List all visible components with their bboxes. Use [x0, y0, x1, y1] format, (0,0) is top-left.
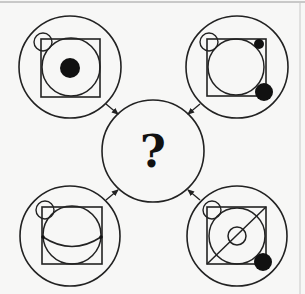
- center-question-panel: ?: [102, 100, 204, 202]
- puzzle-canvas: ?: [0, 0, 305, 294]
- small-open-circle: [34, 33, 52, 51]
- arrow-to-center: [106, 104, 118, 114]
- outer-circle: [20, 186, 120, 286]
- panel-bottom-left: [20, 186, 120, 286]
- arrow-to-center: [106, 190, 118, 200]
- arrow-to-center: [188, 104, 200, 114]
- inner-circle: [43, 206, 101, 264]
- outer-circle: [186, 16, 288, 118]
- small-open-circle: [36, 201, 54, 219]
- puzzle-figure: ?: [0, 0, 305, 294]
- panel-top-right: [186, 16, 288, 118]
- arrow-to-center: [188, 190, 200, 200]
- panel-bottom-right: [187, 186, 287, 286]
- black-dot: [60, 58, 80, 78]
- question-mark: ?: [140, 126, 166, 177]
- small-open-circle: [200, 33, 218, 51]
- equator-arc: [43, 237, 101, 247]
- black-dot: [254, 39, 264, 49]
- equator-right-dot: [99, 235, 103, 239]
- black-dot: [254, 253, 272, 271]
- panel-top-left: [19, 16, 121, 118]
- small-open-circle: [203, 201, 221, 219]
- black-dot: [255, 83, 273, 101]
- equator-left-dot: [41, 235, 45, 239]
